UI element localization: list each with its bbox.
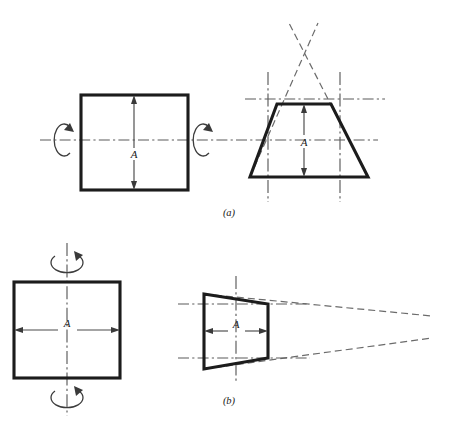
panel-caption-a: (a) [223,207,236,219]
dimension-label-a-left: A [130,148,138,160]
dimension-a-left: A [130,95,138,190]
panel-caption-b: (b) [223,395,236,407]
panel-b: A A (b) [14,243,432,416]
taper-extension-left-a [250,23,318,177]
taper-extension-top-b [204,294,432,316]
dimension-a-right: A [300,104,308,177]
dimension-label-b-right: A [232,318,240,330]
panel-a: A A (a) [40,23,385,219]
dimension-label-a-right: A [300,136,308,148]
dimension-label-b-left: A [63,317,71,329]
engineering-drawing-canvas: A A (a) [0,0,459,427]
